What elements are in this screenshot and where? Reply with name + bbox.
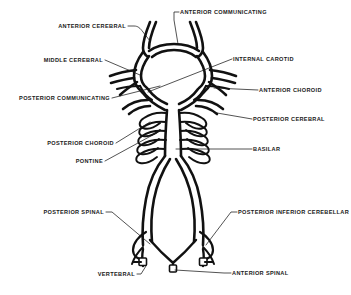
label-anterior-choroid: ANTERIOR CHOROID	[259, 87, 322, 93]
label-posterior-choroid: POSTERIOR CHOROID	[47, 140, 114, 146]
leader-posterior-cerebral	[217, 113, 252, 119]
leader-posterior-inferior-cerebellar	[206, 212, 237, 245]
middle-cerebral-right-lower	[212, 78, 235, 83]
anterior-cerebral-right-inner	[190, 22, 197, 48]
anterior-communicating-inner	[152, 50, 196, 57]
posterior-cerebral-left-lower	[129, 106, 150, 114]
label-basilar: BASILAR	[253, 146, 280, 152]
vessel-anatomy	[110, 22, 236, 272]
label-texts: ANTERIOR CEREBRAL ANTERIOR COMMUNICATING…	[19, 9, 349, 277]
posterior-cerebral-right-lower	[196, 106, 217, 114]
label-middle-cerebral: MIDDLE CEREBRAL	[44, 57, 104, 63]
leader-pontine	[105, 131, 160, 161]
middle-cerebral-left-vessel	[110, 70, 136, 76]
leader-anterior-spinal	[175, 270, 231, 273]
label-anterior-spinal: ANTERIOR SPINAL	[232, 270, 289, 276]
label-anterior-cerebral: ANTERIOR CEREBRAL	[58, 23, 126, 29]
anterior-spinal-right-limb	[174, 240, 196, 262]
leader-vertebral	[137, 266, 146, 274]
circle-of-willis-left-inner	[141, 56, 149, 88]
middle-cerebral-right-vessel	[210, 70, 236, 76]
figure-canvas: ANTERIOR CEREBRAL ANTERIOR COMMUNICATING…	[0, 0, 351, 295]
anterior-spinal-left-limb	[150, 240, 172, 262]
label-posterior-spinal: POSTERIOR SPINAL	[43, 209, 104, 215]
label-posterior-cerebral: POSTERIOR CEREBRAL	[253, 116, 325, 122]
circle-of-willis-diagram: ANTERIOR CEREBRAL ANTERIOR COMMUNICATING…	[0, 0, 351, 295]
leader-anterior-communicating	[174, 12, 179, 44]
label-pontine: PONTINE	[76, 158, 103, 164]
leader-posterior-choroid	[116, 122, 150, 143]
label-posterior-inferior-cerebellar: POSTERIOR INFERIOR CEREBELLAR	[238, 209, 349, 215]
label-vertebral: VERTEBRAL	[98, 271, 136, 277]
middle-cerebral-left-lower	[111, 78, 134, 83]
label-anterior-communicating: ANTERIOR COMMUNICATING	[180, 9, 267, 15]
anterior-cerebral-left-inner	[149, 22, 156, 48]
anterior-spinal-terminal-marker	[170, 265, 177, 272]
label-posterior-communicating: POSTERIOR COMMUNICATING	[19, 95, 110, 101]
label-internal-carotid: INTERNAL CAROTID	[233, 56, 294, 62]
